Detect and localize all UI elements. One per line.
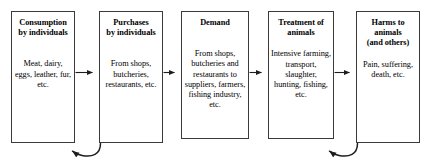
node-treatment-title-line2: animals — [287, 28, 314, 37]
node-harms-body: Pain, suffering, death, etc. — [359, 60, 417, 80]
node-harms-title-line1: Harms to — [371, 18, 404, 27]
node-treatment-title-line1: Treatment of — [278, 18, 323, 27]
node-harms-title-line3: (and others) — [367, 38, 410, 47]
feedback-harms-treatment — [330, 144, 358, 157]
node-purchases-body: From shops, butcheries, restaurants, etc… — [102, 59, 160, 90]
node-demand-title: Demand — [200, 18, 230, 28]
node-consumption-title-line1: Consumption — [19, 18, 66, 27]
node-purchases-title-line2: by individuals — [106, 28, 155, 37]
node-demand-title-line1: Demand — [200, 18, 230, 27]
node-harms-title-line2: animals — [374, 28, 401, 37]
feedback-purchases-consumption — [73, 144, 101, 157]
node-consumption-title-line2: by individuals — [18, 28, 67, 37]
node-treatment-title: Treatment of animals — [278, 18, 323, 38]
node-consumption-body: Meat, dairy, eggs, leather, fur, etc. — [14, 59, 72, 90]
node-demand-body: From shops, butcheries and restaurants t… — [184, 49, 246, 110]
node-demand: Demand From shops, butcheries and restau… — [181, 11, 249, 139]
node-treatment-body: Intensive farming, transport, slaughter,… — [271, 49, 331, 100]
node-purchases: Purchases by individuals From shops, but… — [99, 11, 163, 143]
node-treatment: Treatment of animals Intensive farming, … — [268, 11, 334, 139]
node-consumption-title: Consumption by individuals — [18, 18, 67, 38]
flow-diagram: Consumption by individuals Meat, dairy, … — [0, 0, 428, 164]
node-harms: Harms to animals (and others) Pain, suff… — [356, 11, 420, 143]
node-harms-title: Harms to animals (and others) — [367, 18, 410, 49]
node-consumption: Consumption by individuals Meat, dairy, … — [11, 11, 75, 143]
node-purchases-title: Purchases by individuals — [106, 18, 155, 38]
node-purchases-title-line1: Purchases — [113, 18, 148, 27]
